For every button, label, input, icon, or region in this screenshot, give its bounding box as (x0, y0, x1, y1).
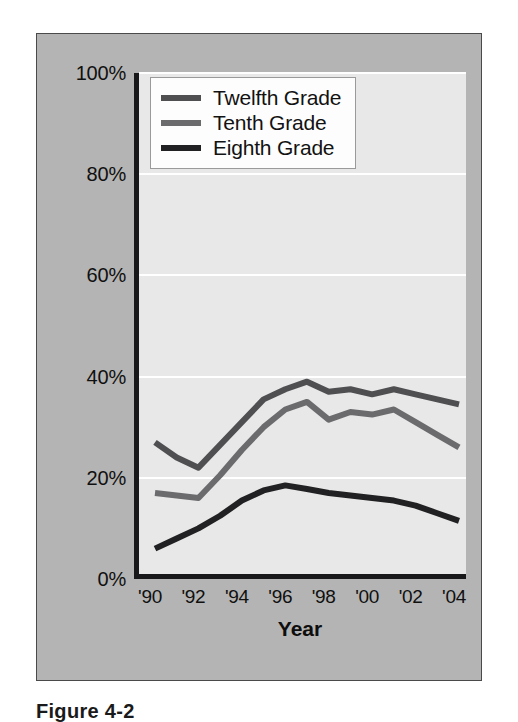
y-axis-tick-label: 60% (87, 264, 126, 287)
x-axis-tick-label: '98 (312, 586, 336, 608)
figure-panel: 100%80%60%40%20%0% '90'92'94'96'98'00'02… (36, 33, 482, 681)
x-axis-tick-label: '92 (181, 586, 205, 608)
y-axis-tick-label: 0% (97, 568, 126, 591)
legend-label-tenth-grade: Tenth Grade (213, 111, 326, 135)
legend-label-eighth-grade: Eighth Grade (213, 136, 334, 160)
x-axis-tick-label: '90 (138, 586, 162, 608)
legend-swatch-twelfth-grade (161, 95, 201, 101)
x-axis-tick-label: '00 (355, 586, 379, 608)
series-line-twelfth-grade (155, 382, 459, 468)
x-axis-tick-label: '96 (268, 586, 292, 608)
x-axis-title: Year (134, 617, 466, 641)
legend-item-twelfth-grade: Twelfth Grade (161, 85, 341, 110)
figure-caption: Figure 4-2 (36, 700, 135, 722)
legend-swatch-eighth-grade (161, 145, 201, 151)
x-axis-tick-labels: '90'92'94'96'98'00'02'04 (134, 586, 466, 614)
legend-item-eighth-grade: Eighth Grade (161, 135, 341, 160)
y-axis-tick-label: 100% (76, 62, 126, 85)
legend-swatch-tenth-grade (161, 120, 201, 126)
x-axis-tick-label: '94 (225, 586, 249, 608)
series-line-tenth-grade (155, 402, 459, 498)
chart-legend: Twelfth Grade Tenth Grade Eighth Grade (150, 77, 356, 169)
y-axis-tick-label: 40% (87, 365, 126, 388)
x-axis-tick-label: '02 (399, 586, 423, 608)
legend-label-twelfth-grade: Twelfth Grade (213, 86, 341, 110)
y-axis-tick-label: 20% (87, 466, 126, 489)
legend-item-tenth-grade: Tenth Grade (161, 110, 341, 135)
y-axis-tick-label: 80% (87, 163, 126, 186)
x-axis-tick-label: '04 (442, 586, 466, 608)
